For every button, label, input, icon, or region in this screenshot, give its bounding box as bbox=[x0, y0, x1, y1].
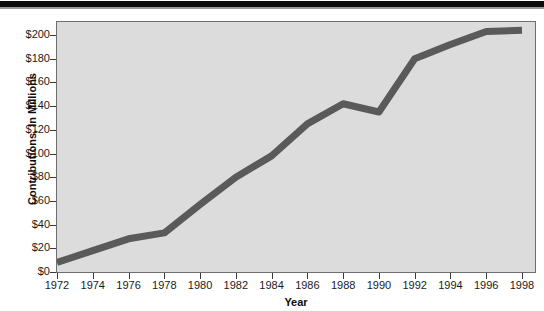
x-tick-label: 1982 bbox=[216, 280, 256, 291]
x-tick-label: 1994 bbox=[430, 280, 470, 291]
x-tick-mark bbox=[486, 273, 487, 279]
y-axis-title: Contributions, In Millions bbox=[26, 44, 38, 234]
x-tick-mark bbox=[200, 273, 201, 279]
x-tick-label: 1984 bbox=[252, 280, 292, 291]
x-tick-label: 1978 bbox=[144, 280, 184, 291]
x-tick-mark bbox=[272, 273, 273, 279]
x-axis-tick-labels: 1972197419761978198019821984198619881990… bbox=[0, 0, 544, 311]
chart-figure: $0$20$40$60$80$100$120$140$160$180$200 1… bbox=[0, 0, 544, 311]
x-tick-mark bbox=[450, 273, 451, 279]
x-tick-label: 1980 bbox=[180, 280, 220, 291]
x-tick-label: 1992 bbox=[395, 280, 435, 291]
x-tick-mark bbox=[522, 273, 523, 279]
x-tick-mark bbox=[343, 273, 344, 279]
x-tick-label: 1998 bbox=[502, 280, 542, 291]
x-tick-mark bbox=[379, 273, 380, 279]
x-tick-label: 1988 bbox=[323, 280, 363, 291]
x-tick-label: 1974 bbox=[73, 280, 113, 291]
x-tick-label: 1976 bbox=[109, 280, 149, 291]
x-tick-mark bbox=[236, 273, 237, 279]
x-tick-label: 1972 bbox=[37, 280, 77, 291]
x-tick-mark bbox=[164, 273, 165, 279]
x-tick-mark bbox=[307, 273, 308, 279]
x-tick-mark bbox=[129, 273, 130, 279]
x-tick-label: 1996 bbox=[466, 280, 506, 291]
x-tick-mark bbox=[93, 273, 94, 279]
x-tick-label: 1986 bbox=[287, 280, 327, 291]
x-axis-title: Year bbox=[56, 296, 536, 308]
x-tick-mark bbox=[57, 273, 58, 279]
x-tick-mark bbox=[415, 273, 416, 279]
x-tick-label: 1990 bbox=[359, 280, 399, 291]
